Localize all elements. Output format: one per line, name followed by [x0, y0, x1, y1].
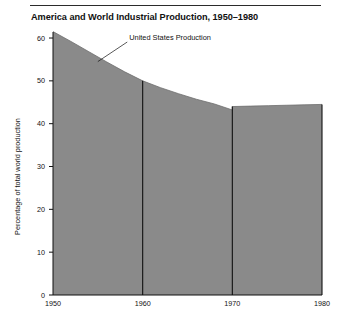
y-tick-label-10: 10 [23, 248, 45, 257]
chart-svg [0, 0, 340, 318]
x-tick-label-1960: 1960 [123, 299, 163, 308]
x-tick-label-1950: 1950 [33, 299, 73, 308]
x-tick-label-1970: 1970 [212, 299, 252, 308]
y-tick-label-60: 60 [23, 34, 45, 43]
plot-area [0, 0, 340, 318]
y-tick-label-20: 20 [23, 205, 45, 214]
y-tick-label-50: 50 [23, 76, 45, 85]
annotation-leader-line-0 [98, 42, 127, 62]
y-tick-label-30: 30 [23, 162, 45, 171]
series-area-united-states-production [53, 32, 322, 295]
y-tick-label-40: 40 [23, 119, 45, 128]
x-tick-label-1980: 1980 [302, 299, 340, 308]
series-annotation-united-states-production: United States Production [129, 33, 211, 42]
chart-figure: America and World Industrial Production,… [0, 0, 340, 318]
